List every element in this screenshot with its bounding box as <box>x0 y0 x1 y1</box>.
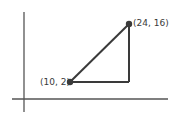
point-a-label: (10, 2) <box>40 77 70 87</box>
hypotenuse <box>70 24 129 82</box>
point-b <box>126 21 132 27</box>
coordinate-plane: (10, 2) (24, 16) <box>0 0 177 117</box>
point-b-label: (24, 16) <box>133 18 169 28</box>
